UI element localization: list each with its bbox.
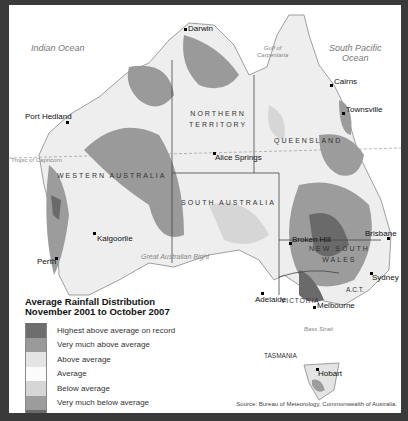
city-alice-springs: Alice Springs — [215, 153, 262, 162]
legend-swatch — [25, 367, 47, 382]
state-south-australia: SOUTH AUSTRALIA — [181, 197, 276, 208]
city-perth: Perth — [37, 257, 56, 266]
state-northern-territory: NORTHERN TERRITORY — [189, 108, 247, 130]
gulf-of-carpentaria-label: Gulf of Carpentaria — [257, 45, 288, 59]
legend-item: Highest above average on record — [25, 323, 175, 338]
city-brisbane: Brisbane — [365, 229, 397, 238]
source-credit: Source: Bureau of Meteorology, Commonwea… — [236, 401, 397, 407]
legend-item: Average — [25, 367, 175, 382]
city-adelaide: Adelaide — [255, 295, 286, 304]
legend-item: Very much above average — [25, 338, 175, 353]
indian-ocean-label: Indian Ocean — [31, 43, 85, 53]
state-act: A.C.T. — [346, 284, 364, 295]
city-townsville: Townsville — [346, 105, 382, 114]
tropic-of-capricorn-label: Tropic of Capricorn — [11, 157, 62, 164]
state-western-australia: WESTERN AUSTRALIA — [57, 170, 166, 181]
city-broken-hill: Broken Hill — [292, 235, 331, 244]
city-cairns: Cairns — [334, 77, 357, 86]
south-pacific-ocean-label: South Pacific Ocean — [329, 43, 382, 63]
legend-swatch — [25, 338, 47, 353]
legend-title: Average Rainfall Distribution November 2… — [25, 297, 175, 317]
legend: Average Rainfall Distribution November 2… — [25, 297, 175, 413]
state-new-south-wales: NEW SOUTH WALES — [309, 243, 370, 265]
city-melbourne: Melbourne — [317, 301, 355, 310]
state-tasmania: TASMANIA — [264, 350, 297, 361]
great-australian-bight-label: Great Australian Bight — [141, 253, 209, 260]
legend-item: Below average — [25, 381, 175, 396]
map-frame: Indian Ocean South Pacific Ocean Gulf of… — [9, 5, 401, 413]
state-victoria: VICTORIA — [281, 295, 320, 306]
legend-items: Highest above average on record Very muc… — [25, 323, 175, 413]
legend-swatch — [25, 323, 47, 338]
city-darwin: Darwin — [188, 24, 213, 33]
city-port-hedland: Port Hedland — [25, 112, 72, 121]
bass-strait-label: Bass Strait — [304, 326, 333, 333]
state-queensland: QUEENSLAND — [274, 135, 342, 146]
legend-item: Very much below average — [25, 396, 175, 411]
city-hobart: Hobart — [318, 369, 342, 378]
legend-swatch — [25, 381, 47, 396]
city-sydney: Sydney — [372, 273, 399, 282]
legend-swatch — [25, 410, 47, 413]
legend-item: Above average — [25, 352, 175, 367]
city-kalgoorlie: Kalgoorlie — [97, 234, 133, 243]
legend-item: Lowest below average on record — [25, 410, 175, 413]
legend-swatch — [25, 396, 47, 411]
legend-swatch — [25, 352, 47, 367]
